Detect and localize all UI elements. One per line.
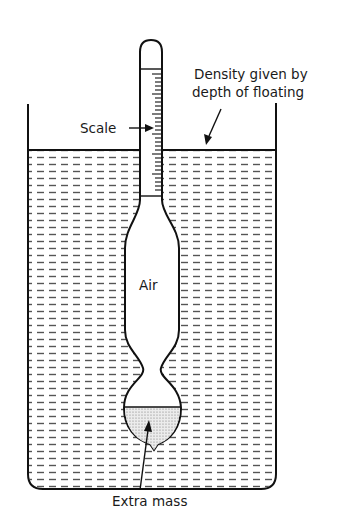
- density-label-line1: Density given by: [194, 66, 308, 82]
- hydrometer-diagram: Scale Density given by depth of floating…: [0, 0, 351, 525]
- extra-mass-label: Extra mass: [112, 493, 187, 509]
- scale-label: Scale: [80, 120, 116, 136]
- air-label: Air: [139, 277, 158, 293]
- density-arrow: [204, 109, 221, 145]
- hydrometer-body: [124, 40, 181, 450]
- density-label-line2: depth of floating: [192, 84, 304, 100]
